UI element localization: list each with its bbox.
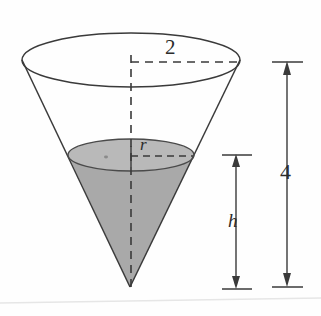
h-arrow-bottom [232, 276, 240, 289]
cone-figure: 2 r h 4 [0, 0, 321, 316]
height-arrow-bottom [283, 273, 291, 287]
cone-diagram-svg [0, 0, 321, 316]
surface-speck [104, 156, 108, 159]
h-arrow-top [232, 154, 240, 167]
label-cone-radius: 2 [165, 37, 176, 58]
label-liquid-height: h [228, 211, 238, 230]
label-cone-height: 4 [280, 161, 291, 183]
scan-artifact-line [0, 298, 321, 303]
height-arrow-top [283, 61, 291, 75]
label-liquid-radius: r [140, 136, 147, 153]
